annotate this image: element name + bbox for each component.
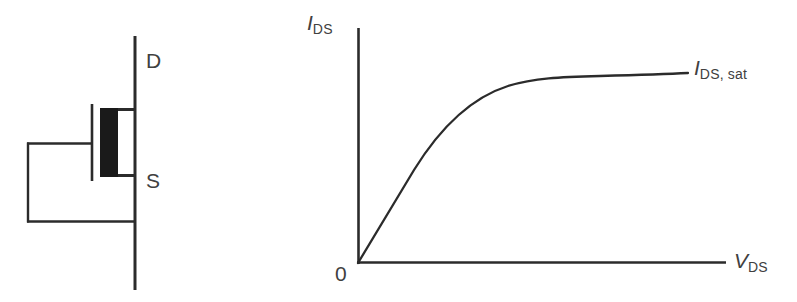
y-axis-label-subscript: DS bbox=[313, 21, 333, 37]
mosfet-symbol bbox=[27, 36, 136, 290]
x-axis-label-subscript: DS bbox=[748, 259, 768, 275]
x-axis-label-symbol: V bbox=[734, 249, 748, 272]
figure-root: D S IDS VDS 0 IDS, sat bbox=[0, 0, 797, 302]
origin-label: 0 bbox=[335, 263, 347, 284]
y-axis-label: IDS bbox=[307, 12, 333, 33]
y-axis-label-symbol: I bbox=[307, 11, 313, 34]
figure-canvas bbox=[0, 0, 797, 302]
saturation-current-symbol: I bbox=[694, 56, 700, 79]
channel-bar bbox=[100, 108, 118, 177]
ids-vds-curve bbox=[358, 73, 688, 263]
saturation-current-subscript: DS, sat bbox=[700, 66, 747, 82]
drain-terminal-label: D bbox=[146, 50, 161, 71]
source-terminal-label: S bbox=[146, 170, 160, 191]
output-characteristic-chart bbox=[357, 28, 726, 264]
x-axis-label: VDS bbox=[734, 250, 768, 271]
saturation-current-label: IDS, sat bbox=[694, 57, 747, 78]
